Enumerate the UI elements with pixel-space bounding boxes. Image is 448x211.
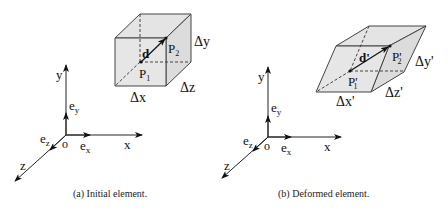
figure-deformed-element: y x z o ey ex ez d' P'1 P'2 Δy' Δz' Δx' … — [222, 26, 434, 200]
x-axis-label: x — [324, 139, 331, 154]
ex-label: ex — [281, 140, 292, 157]
vector-d-prime-label: d' — [359, 50, 370, 65]
ey-label: ey — [69, 98, 80, 115]
delta-x-prime-label: Δx' — [336, 94, 355, 109]
point-p2 — [164, 36, 167, 39]
caption-a: (a) Initial element. — [73, 188, 147, 200]
delta-x-label: Δx — [130, 90, 146, 105]
x-axis-label: x — [124, 137, 131, 152]
ez-label: ez — [243, 133, 253, 150]
origin-label: o — [264, 139, 270, 153]
delta-y-prime-label: Δy' — [415, 54, 434, 69]
ez-label: ez — [40, 131, 50, 148]
point-p1-prime — [348, 69, 351, 72]
ex-label: ex — [80, 138, 91, 155]
point-p2-prime — [388, 44, 391, 47]
vector-d-label: d — [142, 46, 150, 61]
delta-y-label: Δy — [194, 34, 210, 49]
ey-label: ey — [271, 100, 282, 117]
deformed-parallelepiped — [316, 26, 426, 92]
figure-initial-element: y x z o ey ex ez d P1 P2 Δy Δz Δx (a) In… — [15, 14, 210, 200]
delta-z-prime-label: Δz' — [385, 85, 403, 100]
p1-prime-label: P'1 — [348, 74, 358, 91]
z-axis-label: z — [224, 158, 230, 173]
y-axis-label: y — [258, 69, 265, 84]
z-axis-label: z — [20, 158, 26, 173]
delta-z-label: Δz — [180, 80, 195, 95]
caption-b: (b) Deformed element. — [278, 188, 369, 200]
origin-label: o — [62, 137, 68, 151]
p2-prime-label: P'2 — [392, 49, 402, 66]
diagram-canvas: y x z o ey ex ez d P1 P2 Δy Δz Δx (a) In… — [0, 0, 448, 211]
y-axis-label: y — [56, 67, 63, 82]
